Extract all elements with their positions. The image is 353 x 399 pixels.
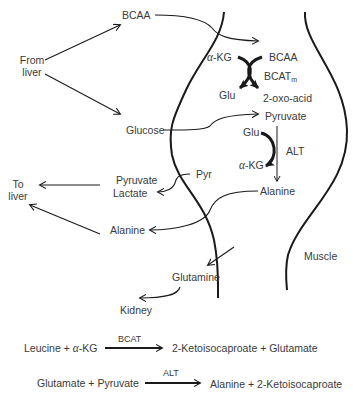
muscle-akg-label-1: α-KG (207, 51, 232, 63)
equation-2-enzyme: ALT (163, 367, 179, 379)
arrow-into-glutamine (208, 247, 234, 265)
alt-enzyme-label: ALT (286, 145, 304, 157)
equation-2-left: Glutamate + Pyruvate (37, 377, 139, 389)
to-liver-line2: liver (4, 190, 32, 202)
arrow-alanine-out (150, 191, 258, 230)
blood-glutamine-label: Glutamine (172, 271, 220, 283)
equation-1-right: 2-Ketoisocaproate + Glutamate (172, 342, 318, 354)
equation-1-reactants: Leucine + (24, 342, 73, 354)
arrow-bcaa-into-muscle (155, 15, 258, 41)
muscle-label: Muscle (304, 250, 337, 262)
equation-2-right: Alanine + 2-Ketoisocaproate (210, 378, 342, 390)
equation-1-akg: -KG (79, 342, 98, 354)
muscle-pyr-label: Pyr (196, 168, 212, 180)
blood-glucose-label: Glucose (126, 124, 165, 136)
blood-pyruvate-label: Pyruvate (116, 174, 157, 186)
arrow-liver-to-bcaa (45, 25, 120, 60)
from-liver-line1: From (14, 54, 50, 66)
blood-bcaa-label: BCAA (122, 9, 151, 21)
pathway-diagram (0, 0, 353, 399)
bcat-text: BCAT (264, 70, 291, 82)
arrow-alanine-to-liver (30, 205, 100, 234)
arrow-glutamine-to-kidney (140, 287, 180, 298)
blood-alanine-label: Alanine (110, 224, 145, 236)
muscle-glu-label-2: Glu (243, 126, 259, 138)
blood-lactate-label: Lactate (113, 187, 147, 199)
equation-1-enzyme: BCAT (118, 333, 141, 345)
akg-text: -KG (213, 51, 232, 63)
from-liver-label: From liver (14, 54, 50, 78)
muscle-oxo-acid-label: 2-oxo-acid (263, 92, 312, 104)
muscle-glu-label-1: Glu (219, 89, 235, 101)
to-liver-line1: To (4, 178, 32, 190)
to-liver-label: To liver (4, 178, 32, 202)
muscle-pyruvate-label: Pyruvate (265, 110, 306, 122)
akg-text: -KG (245, 159, 264, 171)
bcatm-enzyme-label: BCATm (264, 70, 297, 86)
muscle-alanine-label: Alanine (260, 185, 295, 197)
muscle-bcaa-label: BCAA (269, 51, 298, 63)
arrow-liver-to-glucose (45, 74, 120, 114)
equation-1-left: Leucine + α-KG (24, 342, 97, 354)
blood-kidney-label: Kidney (120, 304, 152, 316)
bcat-subscript: m (291, 76, 297, 83)
from-liver-line2: liver (14, 66, 50, 78)
muscle-akg-label-2: α-KG (239, 159, 264, 171)
